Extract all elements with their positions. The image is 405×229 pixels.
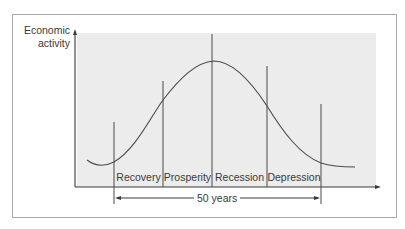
y-axis-label: Economic activity xyxy=(20,24,70,50)
phase-label-recovery: Recovery xyxy=(114,171,163,183)
phase-label-recession: Recession xyxy=(212,171,267,183)
y-axis-label-line2: activity xyxy=(20,37,70,50)
phase-label-depression: Depression xyxy=(267,171,321,183)
y-axis-label-line1: Economic xyxy=(20,24,70,37)
span-label: 50 years xyxy=(194,192,240,204)
economic-activity-curve xyxy=(87,61,355,167)
diagram-canvas: Economic activity Recovery Prosperity Re… xyxy=(0,0,405,229)
y-axis-arrowhead-icon xyxy=(73,29,77,35)
x-axis-arrowhead-icon xyxy=(375,185,381,189)
axes xyxy=(73,29,381,189)
span-arrow-right-icon xyxy=(314,196,320,200)
phase-label-prosperity: Prosperity xyxy=(163,171,212,183)
span-arrow-left-icon xyxy=(115,196,121,200)
